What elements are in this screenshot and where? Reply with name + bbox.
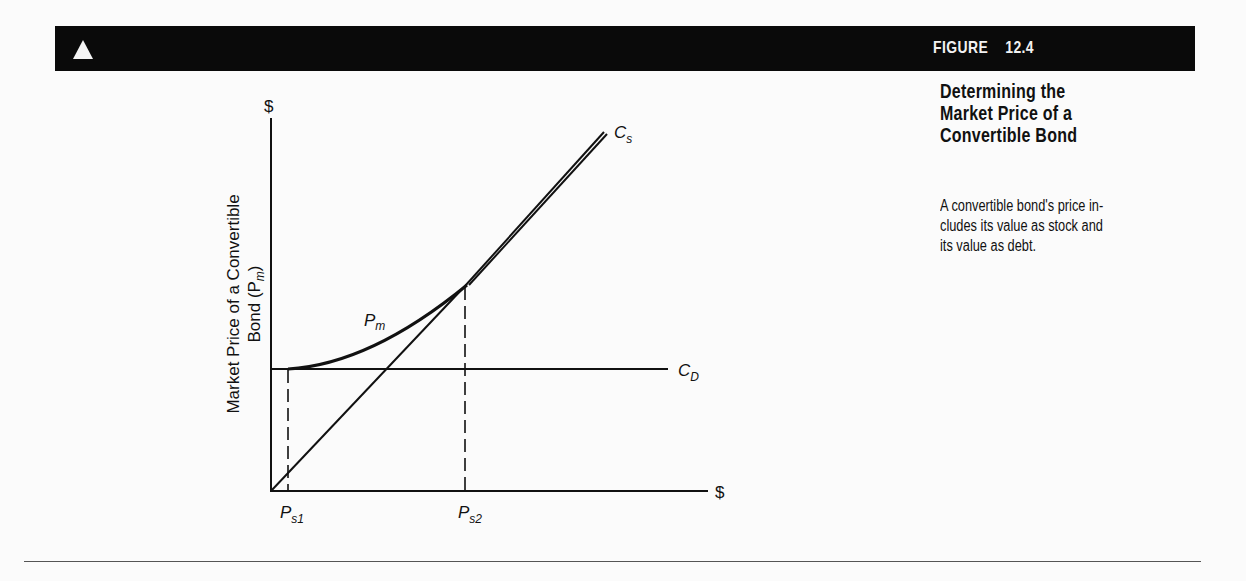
ps2-tick-label: Ps2 [458, 503, 482, 526]
y-axis-label-line1: Market Price of a Convertible [224, 194, 243, 413]
y-axis-label-line2: Bond (P [245, 281, 264, 342]
y-axis-top-label: $ [264, 97, 274, 116]
convertible-bond-chart: $ $ Market Price of a Convertible Bond (… [0, 0, 1246, 581]
svg-text:Bond (Pm): Bond (Pm) [245, 265, 267, 342]
cs-line-label: Cs [614, 123, 632, 146]
y-axis-label: Market Price of a Convertible [224, 194, 243, 413]
bottom-divider-rule [24, 561, 1201, 562]
y-axis-label-sub: m [253, 271, 267, 281]
cs-stock-value-line-upper [465, 132, 604, 286]
y-axis-label-close: ) [245, 265, 264, 271]
y-axis-label-2: Bond (Pm) [245, 265, 267, 342]
pm-curve-label: Pm [364, 311, 385, 333]
cd-line-label: CD [678, 361, 699, 384]
x-axis-end-label: $ [715, 483, 725, 502]
pm-tangent-line-upper [469, 134, 607, 285]
ps1-tick-label: Ps1 [280, 503, 304, 526]
